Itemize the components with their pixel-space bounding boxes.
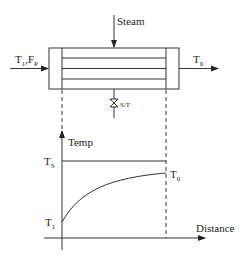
outlet-label: T0	[193, 53, 204, 68]
steam-label: Steam	[117, 15, 145, 27]
process-temperature-curve	[62, 173, 166, 222]
steam-trap-label: S/T	[120, 101, 131, 109]
ts-label: TS	[44, 155, 55, 170]
y-axis-label: Temp	[68, 136, 93, 148]
cut-off-text	[6, 0, 9, 6]
steam-trap-valve-icon	[110, 99, 118, 107]
t1-label: T1	[45, 216, 56, 231]
inlet-label: T1,FP	[15, 53, 38, 68]
heat-exchanger-diagram: Steam T1,FP T0 S/T Temp Distance TS T0 T…	[0, 0, 244, 258]
t0-label: T0	[170, 168, 181, 183]
x-axis-label: Distance	[196, 222, 235, 234]
